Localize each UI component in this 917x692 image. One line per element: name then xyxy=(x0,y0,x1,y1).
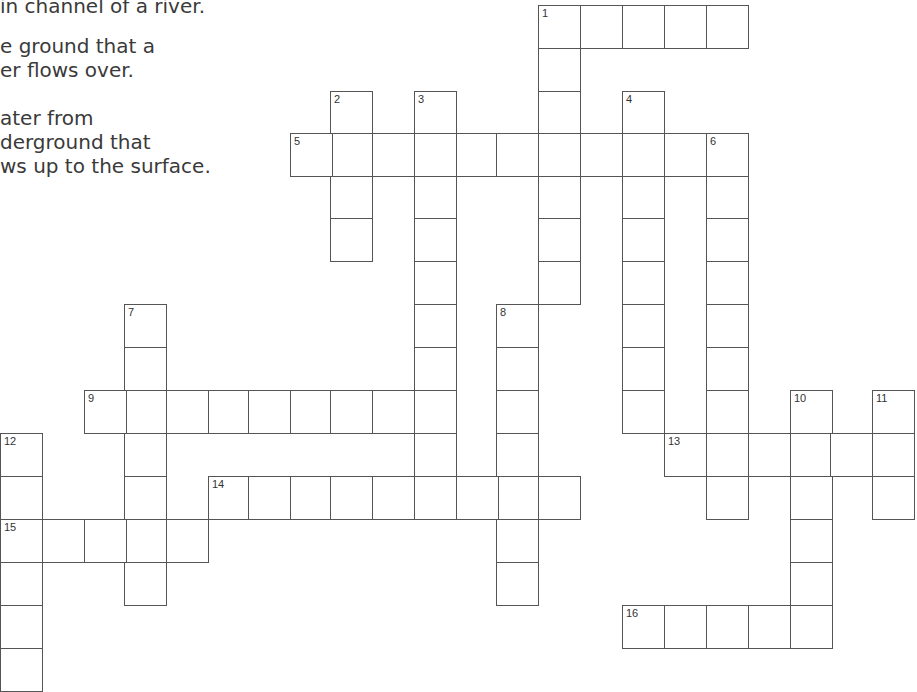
crossword-cell[interactable] xyxy=(372,390,415,434)
crossword-cell[interactable] xyxy=(706,5,749,49)
crossword-cell[interactable] xyxy=(706,347,749,391)
crossword-cell[interactable] xyxy=(706,176,749,220)
crossword-cell[interactable]: 1 xyxy=(538,5,581,49)
crossword-cell[interactable] xyxy=(124,519,167,563)
crossword-cell[interactable] xyxy=(290,476,333,520)
crossword-cell[interactable] xyxy=(330,390,373,434)
crossword-cell[interactable] xyxy=(496,390,539,434)
crossword-cell[interactable] xyxy=(0,648,43,692)
crossword-cell[interactable] xyxy=(496,433,539,477)
crossword-cell[interactable] xyxy=(414,390,457,434)
crossword-cell[interactable] xyxy=(456,476,499,520)
crossword-cell[interactable] xyxy=(830,433,873,477)
crossword-cell[interactable]: 7 xyxy=(124,304,167,348)
crossword-cell[interactable] xyxy=(664,605,707,649)
crossword-cell[interactable] xyxy=(622,133,665,177)
crossword-cell[interactable] xyxy=(208,390,251,434)
crossword-cell[interactable]: 13 xyxy=(664,433,707,477)
crossword-cell[interactable] xyxy=(496,133,539,177)
crossword-cell[interactable] xyxy=(538,133,581,177)
crossword-cell[interactable] xyxy=(622,5,665,49)
crossword-cell[interactable]: 8 xyxy=(496,304,539,348)
crossword-cell[interactable] xyxy=(330,176,373,220)
crossword-cell[interactable]: 4 xyxy=(622,91,665,135)
crossword-cell[interactable] xyxy=(664,5,707,49)
crossword-cell[interactable] xyxy=(330,133,373,177)
crossword-cell[interactable] xyxy=(414,176,457,220)
crossword-cell[interactable]: 12 xyxy=(0,433,43,477)
crossword-cell[interactable] xyxy=(622,176,665,220)
crossword-cell[interactable] xyxy=(790,519,833,563)
crossword-cell[interactable]: 3 xyxy=(414,91,457,135)
crossword-cell[interactable] xyxy=(538,91,581,135)
crossword-cell[interactable] xyxy=(414,261,457,305)
crossword-cell[interactable] xyxy=(664,133,707,177)
crossword-cell[interactable]: 9 xyxy=(84,390,127,434)
crossword-cell[interactable] xyxy=(290,390,333,434)
crossword-cell[interactable] xyxy=(42,519,85,563)
crossword-cell[interactable] xyxy=(580,133,623,177)
crossword-cell[interactable] xyxy=(414,304,457,348)
crossword-cell[interactable] xyxy=(538,476,581,520)
crossword-cell[interactable] xyxy=(414,218,457,262)
crossword-cell[interactable] xyxy=(622,304,665,348)
crossword-cell[interactable]: 2 xyxy=(330,91,373,135)
crossword-cell[interactable] xyxy=(622,218,665,262)
crossword-cell[interactable] xyxy=(330,476,373,520)
crossword-cell[interactable] xyxy=(414,133,457,177)
crossword-cell[interactable] xyxy=(706,218,749,262)
crossword-cell[interactable] xyxy=(0,562,43,606)
crossword-cell[interactable] xyxy=(496,347,539,391)
crossword-cell[interactable] xyxy=(414,347,457,391)
crossword-cell[interactable] xyxy=(166,519,209,563)
crossword-cell[interactable] xyxy=(580,5,623,49)
crossword-cell[interactable] xyxy=(124,390,167,434)
crossword-cell[interactable] xyxy=(790,476,833,520)
crossword-cell[interactable] xyxy=(872,433,915,477)
crossword-cell[interactable] xyxy=(330,218,373,262)
crossword-cell[interactable]: 15 xyxy=(0,519,43,563)
crossword-cell[interactable]: 5 xyxy=(290,133,333,177)
crossword-cell[interactable] xyxy=(84,519,127,563)
crossword-cell[interactable] xyxy=(0,605,43,649)
crossword-cell[interactable]: 16 xyxy=(622,605,665,649)
crossword-cell[interactable]: 14 xyxy=(208,476,251,520)
crossword-cell[interactable] xyxy=(166,390,209,434)
crossword-cell[interactable]: 10 xyxy=(790,390,833,434)
crossword-cell[interactable] xyxy=(496,562,539,606)
crossword-cell[interactable]: 6 xyxy=(706,133,749,177)
crossword-cell[interactable] xyxy=(706,433,749,477)
crossword-cell[interactable] xyxy=(124,433,167,477)
crossword-cell[interactable] xyxy=(706,390,749,434)
crossword-cell[interactable] xyxy=(124,476,167,520)
crossword-cell[interactable] xyxy=(248,390,291,434)
crossword-cell[interactable]: 11 xyxy=(872,390,915,434)
crossword-cell[interactable] xyxy=(124,562,167,606)
crossword-cell[interactable] xyxy=(372,133,415,177)
crossword-cell[interactable] xyxy=(706,605,749,649)
crossword-cell[interactable] xyxy=(538,176,581,220)
crossword-cell[interactable] xyxy=(496,476,539,520)
crossword-cell[interactable] xyxy=(414,433,457,477)
crossword-cell[interactable] xyxy=(790,433,833,477)
crossword-cell[interactable] xyxy=(456,133,499,177)
crossword-cell[interactable] xyxy=(748,433,791,477)
crossword-cell[interactable] xyxy=(372,476,415,520)
crossword-cell[interactable] xyxy=(706,261,749,305)
crossword-cell[interactable] xyxy=(748,605,791,649)
crossword-cell[interactable] xyxy=(538,48,581,92)
crossword-cell[interactable] xyxy=(622,390,665,434)
crossword-cell[interactable] xyxy=(124,347,167,391)
crossword-cell[interactable] xyxy=(622,261,665,305)
crossword-cell[interactable] xyxy=(538,218,581,262)
crossword-cell[interactable] xyxy=(790,562,833,606)
crossword-cell[interactable] xyxy=(248,476,291,520)
crossword-cell[interactable] xyxy=(790,605,833,649)
crossword-cell[interactable] xyxy=(872,476,915,520)
crossword-cell[interactable] xyxy=(414,476,457,520)
crossword-cell[interactable] xyxy=(0,476,43,520)
crossword-cell[interactable] xyxy=(538,261,581,305)
crossword-cell[interactable] xyxy=(496,519,539,563)
crossword-cell[interactable] xyxy=(706,476,749,520)
crossword-cell[interactable] xyxy=(622,347,665,391)
